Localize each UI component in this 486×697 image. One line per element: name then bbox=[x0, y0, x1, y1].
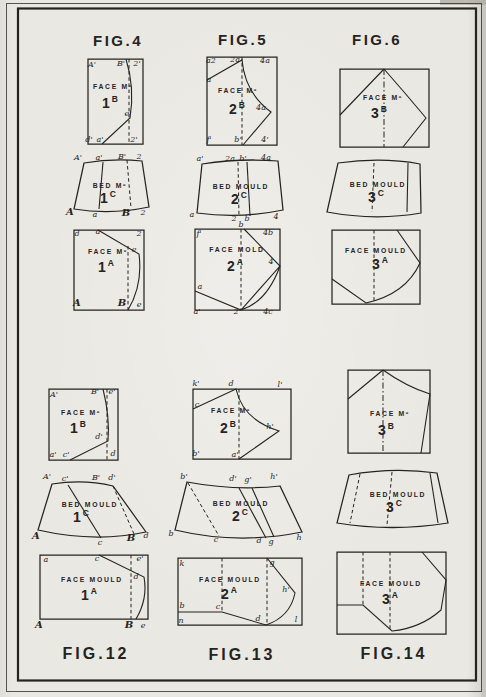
point-label: d' bbox=[95, 432, 102, 441]
fig12-diagram-1C: BED MOULD 1C A'c'B'd'AcBd bbox=[31, 472, 148, 547]
point-label: a bbox=[198, 282, 203, 291]
point-label: 4b bbox=[262, 228, 273, 237]
fig13-diagram-2C: BED MOULD 2C b'd'g'h'bcdgh bbox=[168, 472, 302, 546]
point-label: h' bbox=[266, 422, 273, 431]
fig14-3C-construction-lines bbox=[430, 473, 438, 523]
fig4-1C-dashed-line bbox=[127, 160, 131, 208]
fig6-diagram-3C: BED MOULD 3C bbox=[327, 160, 421, 217]
point-label: a' bbox=[50, 450, 57, 459]
diagram-title: BED MOULD bbox=[62, 501, 118, 508]
diagram-number: 2A bbox=[227, 257, 243, 274]
point-label: b bbox=[179, 601, 184, 610]
diagram-title: FACE Mº bbox=[88, 248, 128, 255]
fig14-diagram-3B: FACE Mº 3B bbox=[348, 370, 430, 453]
fig6-diagram-3A: FACE MOULD 3A bbox=[332, 230, 420, 304]
fig6-diagram-3B: FACE Mº 3B bbox=[340, 69, 429, 147]
point-label: 2' bbox=[132, 59, 140, 68]
point-label: a' bbox=[197, 154, 204, 163]
diagram-numeral: 2 bbox=[231, 191, 239, 207]
fig12-diagram-1B: FACE Mº 1B A'B'e'd'a'c'd bbox=[49, 387, 118, 460]
diagram-title: FACE MOULD bbox=[345, 247, 407, 254]
point-label: 4a bbox=[259, 56, 270, 65]
diagram-number: 3B bbox=[371, 104, 387, 121]
diagram-number: 2C bbox=[232, 507, 248, 524]
point-label: a bbox=[190, 210, 195, 219]
point-label: 4 bbox=[267, 257, 273, 266]
diagram-title: FACE Mº bbox=[218, 87, 258, 94]
point-label: e bbox=[137, 300, 142, 309]
diagram-number: 3A bbox=[382, 590, 398, 607]
fig14-diagram-3A: FACE MOULD 3A bbox=[337, 552, 446, 634]
point-label: A' bbox=[49, 390, 58, 399]
diagram-number: 1C bbox=[100, 189, 116, 206]
diagram-numeral: 3 bbox=[382, 591, 390, 607]
diagram-title: BED MOULD bbox=[213, 183, 269, 190]
point-label: b bbox=[168, 529, 173, 538]
plate-page: FIG.4 FACE Mº 1B A'B'2'e'd'a'2' BED Mº 1… bbox=[0, 0, 486, 697]
point-label: c bbox=[195, 400, 200, 409]
diagram-number: 1A bbox=[81, 586, 97, 603]
fig13-2B-outline bbox=[193, 389, 291, 459]
figure-fig4: FIG.4 FACE Mº 1B A'B'2'e'd'a'2' BED Mº 1… bbox=[65, 32, 149, 310]
fig6-header: FIG.6 bbox=[352, 31, 402, 48]
diagram-numeral: 3 bbox=[378, 422, 386, 438]
diagram-number: 1B bbox=[70, 419, 86, 436]
point-label: 4a bbox=[260, 153, 271, 162]
figure-fig12: FACE Mº 1B A'B'e'd'a'c'd BED MOULD 1C A'… bbox=[31, 387, 148, 662]
diagram-title: FACE MOULD bbox=[61, 576, 123, 583]
point-label: 4 bbox=[272, 212, 278, 221]
scan-top-smudge bbox=[440, 0, 486, 5]
point-label: d bbox=[256, 536, 261, 545]
point-label: d bbox=[74, 229, 79, 238]
point-label: c' bbox=[62, 474, 69, 483]
fig13-2C-dashed-line bbox=[188, 483, 219, 536]
figure-fig6: FIG.6 FACE Mº 3B BED MOULD 3C FACE MOULD… bbox=[327, 31, 429, 304]
point-label: A' bbox=[73, 153, 82, 162]
point-label: B bbox=[117, 297, 126, 308]
fig5-diagram-2C: BED MOULD 2C a'2ab'4aa2b4 bbox=[190, 153, 283, 223]
fig4-diagram-1C: BED Mº 1C A'a'B'2AaB2 bbox=[65, 152, 149, 219]
diagram-title: FACE Mº bbox=[211, 407, 251, 414]
point-labels: k'dl'ch'b'a' bbox=[192, 379, 282, 459]
point-label: 2 bbox=[232, 307, 238, 316]
point-label: d bbox=[228, 379, 233, 388]
figure-fig14: FACE Mº 3B BED MOULD 3C FACE MOULD 3A FI… bbox=[337, 370, 448, 662]
point-label: d' bbox=[229, 474, 236, 483]
diagram-numeral: 1 bbox=[98, 259, 106, 275]
fig5-2A-construction-lines bbox=[195, 229, 280, 310]
point-label: 2 bbox=[139, 208, 145, 217]
point-label: a' bbox=[194, 307, 201, 316]
point-label: d bbox=[143, 531, 148, 540]
point-label: c bbox=[98, 538, 103, 547]
point-label: A bbox=[65, 206, 74, 217]
diagram-numeral: 1 bbox=[70, 420, 78, 436]
point-label: e bbox=[141, 621, 146, 630]
diagram-numeral: 3 bbox=[371, 105, 379, 121]
diagram-letter: C bbox=[110, 189, 116, 199]
point-label: 4c bbox=[262, 307, 273, 316]
diagram-numeral: 3 bbox=[368, 189, 376, 205]
point-label: h bbox=[296, 533, 301, 542]
point-label: b bbox=[238, 220, 243, 229]
diagram-letter: C bbox=[241, 190, 247, 200]
point-label: c' bbox=[63, 450, 70, 459]
figure-fig13: FACE Mº 2B k'dl'ch'b'a' BED MOULD 2C b'd… bbox=[168, 379, 302, 663]
diagram-letter: A bbox=[108, 258, 114, 268]
point-label: l bbox=[295, 615, 298, 624]
point-label: a' bbox=[232, 450, 239, 459]
point-label: A bbox=[31, 530, 40, 541]
diagram-numeral: 2 bbox=[232, 508, 240, 524]
diagram-numeral: 1 bbox=[100, 190, 108, 206]
fig13-diagram-2B: FACE Mº 2B k'dl'ch'b'a' bbox=[192, 379, 291, 459]
point-label: a' bbox=[97, 135, 104, 144]
point-label: f' bbox=[195, 229, 201, 238]
diagram-number: 3A bbox=[372, 255, 388, 272]
fig14-diagram-3C: BED MOULD 3C bbox=[337, 470, 448, 527]
point-label: A' bbox=[87, 60, 96, 69]
fig5-diagram-2A: FACE MOLD 2A f'b4b4aa'24c bbox=[194, 220, 280, 316]
point-label: d bbox=[110, 449, 115, 458]
diagram-title: FACE Mº bbox=[370, 410, 410, 417]
diagram-numeral: 1 bbox=[102, 95, 110, 111]
point-label: 2' bbox=[129, 135, 137, 144]
point-label: 2 bbox=[135, 229, 141, 238]
